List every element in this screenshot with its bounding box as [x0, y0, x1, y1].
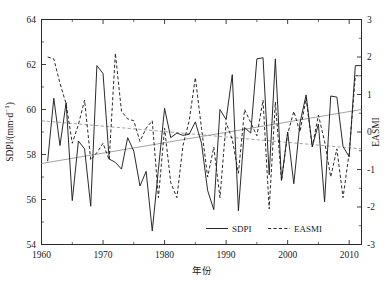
- y-axis-tick-label: 54: [27, 240, 37, 250]
- y2-axis-tick-label: -1: [367, 165, 375, 175]
- plot-frame: [42, 20, 362, 245]
- legend-label-sdpi: SDPI: [232, 224, 252, 234]
- y2-axis-tick-label: 3: [367, 15, 372, 25]
- trend-line-sdpi-trend: [42, 110, 362, 164]
- chart-figure: 196019701980199020002010545658606264-3-2…: [0, 0, 391, 294]
- y-axis-label: SDPI/(mm·d−1): [3, 102, 16, 162]
- y-axis-tick-label: 56: [27, 195, 37, 205]
- x-axis-tick-label: 1990: [217, 250, 236, 260]
- x-axis-tick-label: 2010: [340, 250, 359, 260]
- y2-axis-tick-label: 1: [367, 90, 372, 100]
- y-axis-tick-label: 64: [27, 15, 37, 25]
- x-axis-tick-label: 1960: [32, 250, 51, 260]
- y2-axis-tick-label: -2: [367, 202, 375, 212]
- y-axis-tick-label: 62: [27, 60, 37, 70]
- y2-axis-tick-label: -3: [367, 240, 375, 250]
- x-axis-tick-label: 1980: [155, 250, 174, 260]
- y-axis-tick-label: 60: [27, 105, 37, 115]
- y2-axis-tick-label: 2: [367, 52, 372, 62]
- x-axis-tick-label: 1970: [94, 250, 113, 260]
- series-line-easmi: [48, 53, 362, 209]
- x-axis-label: 年份: [192, 265, 212, 276]
- y2-axis-label: EASMI: [371, 117, 381, 147]
- series-line-sdpi: [48, 58, 362, 231]
- y-axis-tick-label: 58: [27, 150, 37, 160]
- legend-label-easmi: EASMI: [294, 224, 322, 234]
- x-axis-tick-label: 2000: [278, 250, 297, 260]
- chart-svg: 196019701980199020002010545658606264-3-2…: [0, 0, 391, 294]
